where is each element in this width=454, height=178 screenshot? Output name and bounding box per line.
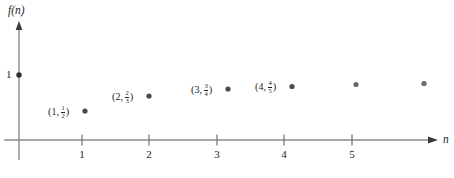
fraction-numerator: 4 bbox=[268, 80, 272, 87]
annotation-close-paren: ) bbox=[66, 107, 70, 118]
annotation-close-paren: ) bbox=[209, 85, 213, 96]
x-tick-label-1: 1 bbox=[76, 149, 88, 160]
fraction-denominator: 5 bbox=[268, 87, 272, 95]
fraction-denominator: 3 bbox=[125, 97, 129, 105]
x-axis-arrowhead bbox=[428, 136, 438, 143]
plot-canvas bbox=[0, 0, 454, 178]
x-axis-label: n bbox=[443, 134, 449, 146]
data-point-5 bbox=[353, 82, 358, 87]
annotation-n-value: 2, bbox=[116, 92, 125, 102]
annotation-close-paren: ) bbox=[130, 92, 134, 103]
function-plot-figure: f(n) n 1 1 2 3 4 5 ( 1, 1 2 ) ( 2, 2 3 )… bbox=[0, 0, 454, 178]
annotation-fraction: 1 2 bbox=[61, 105, 65, 119]
annotation-n-value: 1, bbox=[52, 107, 61, 117]
fraction-denominator: 4 bbox=[204, 90, 208, 98]
data-point-6 bbox=[421, 81, 426, 86]
annotation-fraction: 2 3 bbox=[125, 90, 129, 104]
fraction-numerator: 3 bbox=[204, 83, 208, 90]
point-annotation-2: ( 2, 2 3 ) bbox=[112, 90, 133, 104]
point-annotation-1: ( 1, 1 2 ) bbox=[48, 105, 69, 119]
x-tick-label-5: 5 bbox=[346, 149, 358, 160]
y-tick-label-1: 1 bbox=[6, 69, 12, 80]
x-tick-label-2: 2 bbox=[143, 149, 155, 160]
point-annotation-3: ( 3, 3 4 ) bbox=[191, 83, 212, 97]
x-tick-label-4: 4 bbox=[278, 149, 290, 160]
point-annotation-4: ( 4, 4 5 ) bbox=[255, 80, 276, 94]
annotation-fraction: 3 4 bbox=[204, 83, 208, 97]
data-point-3 bbox=[225, 86, 230, 91]
x-tick-label-3: 3 bbox=[211, 149, 223, 160]
annotation-close-paren: ) bbox=[273, 82, 277, 93]
data-point-1 bbox=[82, 108, 87, 113]
data-point-2 bbox=[146, 93, 151, 98]
fraction-numerator: 1 bbox=[61, 105, 65, 112]
annotation-fraction: 4 5 bbox=[268, 80, 272, 94]
y-axis-label: f(n) bbox=[8, 5, 25, 17]
annotation-n-value: 3, bbox=[195, 85, 204, 95]
y-value-one-marker bbox=[16, 72, 21, 77]
fraction-denominator: 2 bbox=[61, 112, 65, 120]
data-point-4 bbox=[289, 84, 294, 89]
fraction-numerator: 2 bbox=[125, 90, 129, 97]
annotation-n-value: 4, bbox=[259, 82, 268, 92]
y-axis-arrowhead bbox=[16, 21, 23, 30]
